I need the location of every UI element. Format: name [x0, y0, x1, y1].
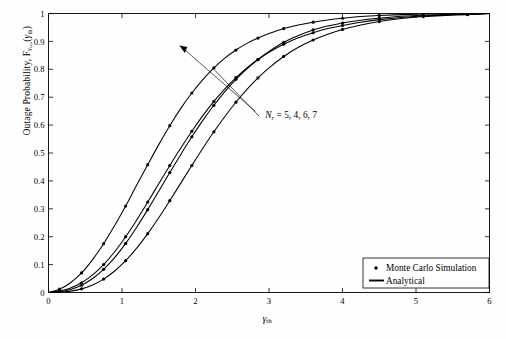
- series-marker: [168, 164, 171, 167]
- annotation-values: = 5, 4, 6, 7: [274, 110, 317, 120]
- series-marker: [212, 100, 215, 103]
- series-line: [49, 14, 490, 293]
- y-tick-label: 0.7: [34, 92, 45, 102]
- y-axis-label: Outage Probability, Fγsco(γth): [22, 0, 33, 186]
- series-marker: [190, 130, 193, 133]
- series-marker: [146, 163, 149, 166]
- y-tick-label: 0.9: [34, 37, 45, 47]
- series-marker: [234, 78, 237, 81]
- series-marker: [102, 278, 105, 281]
- series-marker: [341, 28, 344, 31]
- x-tick-label: 4: [340, 296, 345, 306]
- x-tick-label: 0: [46, 296, 50, 306]
- series-group: [49, 12, 490, 294]
- series-line: [49, 14, 490, 293]
- series-marker: [312, 21, 315, 24]
- series-marker: [168, 199, 171, 202]
- x-tick-label: 3: [267, 296, 271, 306]
- series-marker: [58, 291, 61, 294]
- legend-marker-dot-icon: [374, 266, 377, 269]
- series-marker: [341, 17, 344, 20]
- y-tick-label: 0.4: [34, 176, 45, 186]
- series-marker: [124, 259, 127, 262]
- series-marker: [234, 48, 237, 51]
- annotation-arrowhead: [179, 46, 187, 54]
- series-marker: [80, 284, 83, 287]
- x-axis-label: γth: [0, 313, 506, 324]
- y-tick-label: 0.3: [34, 204, 45, 214]
- plot-frame: [49, 14, 490, 293]
- y-tick-label: 1: [40, 9, 44, 19]
- x-tick-label: 6: [487, 296, 492, 306]
- y-tick-label: 0.6: [34, 120, 45, 130]
- series-marker: [146, 201, 149, 204]
- series-marker: [212, 130, 215, 133]
- chart-canvas: 012345600.10.20.30.40.50.60.70.80.91Nr =…: [0, 0, 506, 339]
- legend-entry-monte-carlo: Monte Carlo Simulation: [386, 263, 477, 273]
- x-axis-sub: th: [266, 317, 271, 324]
- series-marker: [282, 55, 285, 58]
- series-marker: [256, 76, 259, 79]
- y-tick-label: 0.5: [34, 148, 45, 158]
- series-marker: [146, 232, 149, 235]
- legend-entry-analytical: Analytical: [386, 276, 425, 286]
- series-marker: [422, 15, 425, 18]
- series-marker: [168, 124, 171, 127]
- y-axis-paren-open: (: [22, 38, 32, 41]
- series-marker: [312, 38, 315, 41]
- series-marker: [212, 104, 215, 107]
- series-marker: [102, 263, 105, 266]
- series-marker: [256, 58, 259, 61]
- series-marker: [124, 242, 127, 245]
- series-marker: [341, 21, 344, 24]
- series-marker: [378, 14, 381, 17]
- series-line: [49, 14, 490, 293]
- series-marker: [80, 287, 83, 290]
- annotation-label: Nr = 5, 4, 6, 7: [264, 110, 317, 121]
- y-tick-label: 0.2: [34, 232, 45, 242]
- series-line: [49, 14, 490, 293]
- y-axis-label-sub-gamma: γsco: [22, 42, 32, 51]
- y-axis-label-prefix: Outage Probability, F: [22, 51, 32, 136]
- series-marker: [256, 36, 259, 39]
- y-tick-label: 0.8: [34, 64, 45, 74]
- series-marker: [124, 204, 127, 207]
- series-marker: [312, 28, 315, 31]
- series-marker: [190, 135, 193, 138]
- series-marker: [146, 208, 149, 211]
- series-marker: [168, 171, 171, 174]
- series-marker: [212, 66, 215, 69]
- series-marker: [102, 242, 105, 245]
- series-marker: [378, 20, 381, 23]
- series-marker: [124, 235, 127, 238]
- y-tick-label: 0.1: [34, 260, 45, 270]
- series-marker: [282, 27, 285, 30]
- y-tick-label: 0: [40, 288, 44, 298]
- x-tick-label: 1: [120, 296, 124, 306]
- figure-outage-probability: 012345600.10.20.30.40.50.60.70.80.91Nr =…: [0, 0, 506, 339]
- series-marker: [102, 268, 105, 271]
- series-marker: [282, 41, 285, 44]
- series-marker: [190, 91, 193, 94]
- series-marker: [190, 164, 193, 167]
- x-tick-label: 2: [193, 296, 197, 306]
- annotation-leader-main: [183, 49, 255, 112]
- series-marker: [312, 31, 315, 34]
- y-axis-paren-close: ): [22, 26, 32, 29]
- series-marker: [80, 271, 83, 274]
- y-axis-arg-sub: th: [26, 29, 33, 34]
- series-marker: [234, 101, 237, 104]
- x-tick-label: 5: [414, 296, 418, 306]
- y-axis-arg-gamma: γ: [22, 35, 32, 39]
- series-marker: [378, 17, 381, 20]
